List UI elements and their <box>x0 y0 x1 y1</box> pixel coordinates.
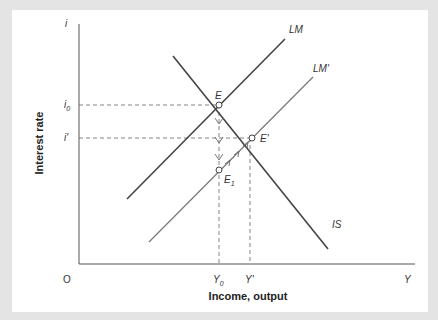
lm-label: LM <box>289 24 304 35</box>
y-axis-symbol: i <box>65 18 68 29</box>
is-lm-diagram: LM LM' IS E E' E1 i Y O i0 i' Y0 Y' Inco… <box>0 0 438 320</box>
e1-sub: 1 <box>231 180 235 187</box>
e-label: E <box>215 90 222 101</box>
lm-prime-label: LM' <box>313 63 330 74</box>
x-axis-symbol: Y <box>404 274 412 285</box>
tick-iprime: i' <box>64 132 69 143</box>
lm-prime-curve <box>149 77 313 242</box>
tick-i0-sub: 0 <box>66 105 70 112</box>
e-prime-label: E' <box>260 133 270 144</box>
lm-curve <box>127 39 285 199</box>
point-e-prime <box>249 135 255 141</box>
origin-label: O <box>63 274 71 285</box>
down-arrows <box>215 118 223 160</box>
x-axis-title: Income, output <box>209 290 288 302</box>
y-axis-title: Interest rate <box>33 112 45 175</box>
tick-y0: Y0 <box>213 274 224 287</box>
point-e1 <box>216 167 222 173</box>
point-e <box>216 102 222 108</box>
e1-label: E1 <box>224 174 235 187</box>
tick-i0: i0 <box>64 99 70 112</box>
tick-y0-sub: 0 <box>220 280 224 287</box>
is-label: IS <box>332 219 342 230</box>
tick-yprime: Y' <box>245 274 255 285</box>
